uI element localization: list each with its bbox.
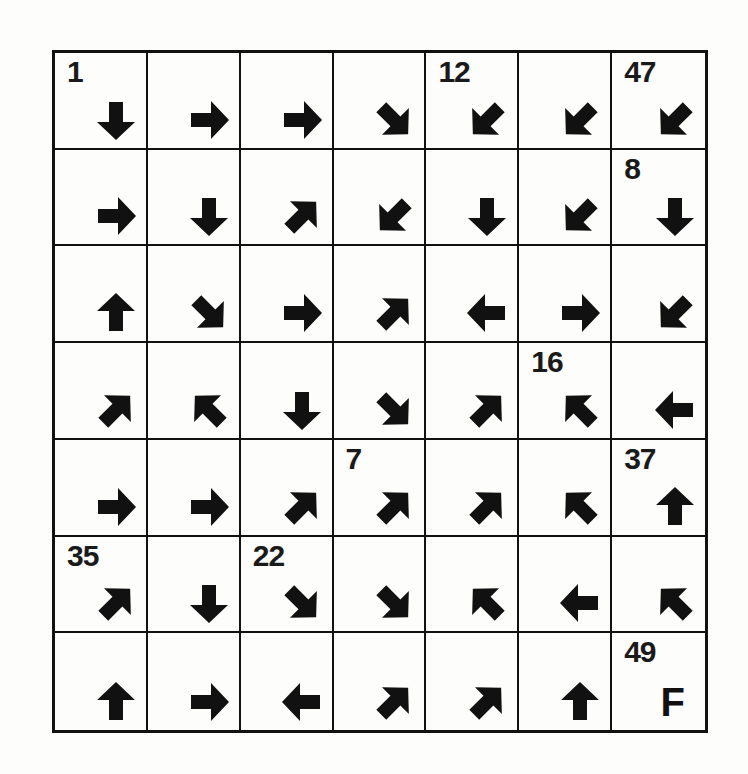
grid-cell-r1-c7[interactable]: 47 [612,53,705,150]
arrow-left-icon [558,581,602,625]
arrow-down-icon [653,194,697,238]
arrow-up-left-icon [187,388,231,432]
grid-cell-r4-c4[interactable] [334,343,427,440]
grid-cell-r6-c7[interactable] [612,537,705,634]
cell-number: 1 [67,55,83,89]
arrow-up-right-icon [372,291,416,335]
grid-cell-r3-c2[interactable] [148,246,241,343]
arrow-down-icon [465,194,509,238]
cell-number: 37 [624,442,655,476]
arrow-up-right-icon [372,485,416,529]
arrow-down-right-icon [187,291,231,335]
grid-cell-r2-c1[interactable] [55,150,148,247]
grid-cell-r3-c4[interactable] [334,246,427,343]
grid-cell-r6-c2[interactable] [148,537,241,634]
arrow-up-right-icon [465,485,509,529]
grid-cell-r4-c1[interactable] [55,343,148,440]
cell-number: 22 [253,539,284,573]
arrow-up-left-icon [653,581,697,625]
grid-cell-r3-c5[interactable] [426,246,519,343]
arrow-up-icon [94,291,138,335]
grid-cell-r4-c7[interactable] [612,343,705,440]
cell-number: 49 [624,635,655,669]
grid-cell-r1-c3[interactable] [241,53,334,150]
grid-cell-r1-c1[interactable]: 1 [55,53,148,150]
grid-cell-r6-c6[interactable] [519,537,612,634]
arrow-down-left-icon [558,98,602,142]
arrow-left-icon [653,388,697,432]
arrow-up-right-icon [94,581,138,625]
grid-cell-r7-c1[interactable] [55,633,148,730]
arrow-up-icon [94,680,138,724]
grid-cell-r5-c5[interactable] [426,440,519,537]
grid-cell-r6-c1[interactable]: 35 [55,537,148,634]
grid-cell-r7-c2[interactable] [148,633,241,730]
arrow-down-left-icon [372,194,416,238]
cell-number: 47 [624,55,655,89]
grid-cell-r3-c3[interactable] [241,246,334,343]
cell-number: 8 [624,152,640,186]
arrow-right-icon [94,485,138,529]
arrow-up-left-icon [465,581,509,625]
grid-cell-r2-c7[interactable]: 8 [612,150,705,247]
grid-cell-r4-c6[interactable]: 16 [519,343,612,440]
arrow-down-left-icon [465,98,509,142]
arrow-down-left-icon [653,98,697,142]
grid-cell-r5-c4[interactable]: 7 [334,440,427,537]
arrow-up-right-icon [465,680,509,724]
grid-cell-r5-c7[interactable]: 37 [612,440,705,537]
arrow-up-right-icon [372,680,416,724]
arrow-up-right-icon [465,388,509,432]
grid-cell-r3-c1[interactable] [55,246,148,343]
grid-cell-r3-c7[interactable] [612,246,705,343]
grid-cell-r5-c3[interactable] [241,440,334,537]
grid-cell-r1-c5[interactable]: 12 [426,53,519,150]
grid-cell-r7-c6[interactable] [519,633,612,730]
cell-number: 12 [438,55,469,89]
cell-number: 35 [67,539,98,573]
arrow-down-icon [187,581,231,625]
arrow-right-icon [280,291,324,335]
grid-cell-r2-c2[interactable] [148,150,241,247]
arrow-puzzle-grid: 11247816737352249F [52,50,708,733]
cell-number: 7 [346,442,362,476]
grid-cell-r6-c3[interactable]: 22 [241,537,334,634]
arrow-down-icon [280,388,324,432]
grid-cell-r1-c6[interactable] [519,53,612,150]
arrow-up-right-icon [280,194,324,238]
arrow-right-icon [187,680,231,724]
arrow-up-left-icon [558,388,602,432]
grid-cell-r5-c2[interactable] [148,440,241,537]
grid-cell-r6-c5[interactable] [426,537,519,634]
arrow-up-left-icon [558,485,602,529]
grid-cell-r7-c5[interactable] [426,633,519,730]
arrow-left-icon [280,680,324,724]
arrow-right-icon [94,194,138,238]
grid-cell-r4-c3[interactable] [241,343,334,440]
arrow-up-right-icon [94,388,138,432]
grid-cell-r7-c7[interactable]: 49F [612,633,705,730]
grid-cell-r2-c3[interactable] [241,150,334,247]
grid-cell-r1-c4[interactable] [334,53,427,150]
grid-cell-r5-c6[interactable] [519,440,612,537]
arrow-down-right-icon [372,581,416,625]
arrow-down-left-icon [558,194,602,238]
grid-cell-r3-c6[interactable] [519,246,612,343]
grid-cell-r7-c3[interactable] [241,633,334,730]
arrow-left-icon [465,291,509,335]
grid-cell-r4-c5[interactable] [426,343,519,440]
arrow-up-right-icon [280,485,324,529]
grid-cell-r2-c4[interactable] [334,150,427,247]
arrow-right-icon [558,291,602,335]
grid-cell-r4-c2[interactable] [148,343,241,440]
arrow-right-icon [187,98,231,142]
grid-cell-r6-c4[interactable] [334,537,427,634]
arrow-right-icon [280,98,324,142]
arrow-down-right-icon [372,388,416,432]
grid-cell-r7-c4[interactable] [334,633,427,730]
grid-cell-r2-c6[interactable] [519,150,612,247]
grid-cell-r5-c1[interactable] [55,440,148,537]
grid-cell-r1-c2[interactable] [148,53,241,150]
cell-number: 16 [531,345,562,379]
grid-cell-r2-c5[interactable] [426,150,519,247]
